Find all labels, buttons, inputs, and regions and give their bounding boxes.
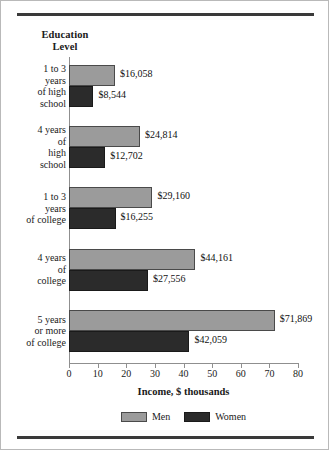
bar-men[interactable] [69, 65, 115, 86]
bar-men[interactable] [69, 310, 275, 331]
category-label-line: 1 to 3 [4, 191, 66, 203]
legend-swatch-icon [184, 412, 210, 422]
bar-women[interactable] [69, 331, 189, 352]
bar-row: $12,702 [69, 147, 298, 168]
y-axis-title: Education Level [23, 29, 107, 52]
category-label-line: years [4, 75, 66, 87]
category-label-line: 4 years [4, 124, 66, 136]
legend-label: Women [215, 411, 246, 422]
x-tick-label: 20 [111, 368, 141, 379]
bar-row: $8,544 [69, 86, 298, 107]
bar-value-label: $44,161 [200, 252, 233, 263]
legend-swatch-icon [121, 412, 147, 422]
category-label-line: of [4, 136, 66, 148]
bar-row: $16,255 [69, 208, 298, 229]
bar-men[interactable] [69, 187, 152, 208]
bar-value-label: $71,869 [280, 313, 313, 324]
x-tick-label: 30 [140, 368, 170, 379]
bar-women[interactable] [69, 270, 148, 291]
category-label-line: 1 to 3 [4, 63, 66, 75]
bar-value-label: $12,702 [110, 150, 143, 161]
category-label-line: school [4, 98, 66, 110]
x-tick-label: 80 [283, 368, 313, 379]
bar-women[interactable] [69, 208, 116, 229]
chart-figure: Education Level 01020304050607080 $16,05… [0, 0, 329, 450]
bar-women[interactable] [69, 147, 105, 168]
x-tick-label: 50 [197, 368, 227, 379]
bar-value-label: $16,058 [120, 68, 153, 79]
x-tick-label: 60 [226, 368, 256, 379]
category-label-line: 4 years [4, 252, 66, 264]
category-label-line: of high [4, 86, 66, 98]
bottom-rule [17, 436, 314, 439]
bar-value-label: $8,544 [98, 89, 126, 100]
bar-value-label: $24,814 [145, 129, 178, 140]
bar-men[interactable] [69, 126, 140, 147]
bar-row: $71,869 [69, 310, 298, 331]
bar-women[interactable] [69, 86, 93, 107]
bar-group: $44,161$27,556 [69, 241, 298, 302]
category-label: 4 yearsofhighschool [4, 124, 66, 170]
legend-label: Men [152, 411, 170, 422]
category-label-line: years [4, 203, 66, 215]
category-label-line: 5 years [4, 314, 66, 326]
bar-group: $71,869$42,059 [69, 302, 298, 363]
y-axis-title-line1: Education [42, 29, 89, 40]
bar-group: $29,160$16,255 [69, 179, 298, 240]
bar-value-label: $16,255 [121, 211, 154, 222]
legend-item-men[interactable]: Men [121, 411, 170, 422]
x-axis-title: Income, $ thousands [69, 386, 298, 397]
category-label: 4 yearsofcollege [4, 252, 66, 287]
top-rule [17, 13, 314, 16]
x-tick-label: 70 [254, 368, 284, 379]
x-tick-label: 40 [169, 368, 199, 379]
bar-group: $16,058$8,544 [69, 57, 298, 118]
category-label-line: school [4, 159, 66, 171]
category-label-line: or more [4, 325, 66, 337]
x-tick-label: 0 [54, 368, 84, 379]
bar-row: $27,556 [69, 270, 298, 291]
category-label-line: of college [4, 337, 66, 349]
bar-value-label: $27,556 [153, 273, 186, 284]
legend-item-women[interactable]: Women [184, 411, 246, 422]
chart-legend: MenWomen [69, 411, 298, 422]
category-label-line: college [4, 275, 66, 287]
category-label: 1 to 3yearsof college [4, 191, 66, 226]
y-axis-title-line2: Level [23, 41, 107, 53]
plot-area: 01020304050607080 $16,058$8,544$24,814$1… [69, 57, 298, 363]
category-label-line: of college [4, 214, 66, 226]
bar-row: $29,160 [69, 187, 298, 208]
bar-row: $42,059 [69, 331, 298, 352]
bar-row: $44,161 [69, 249, 298, 270]
bar-row: $24,814 [69, 126, 298, 147]
bar-row: $16,058 [69, 65, 298, 86]
category-label: 5 yearsor moreof college [4, 314, 66, 349]
bar-group: $24,814$12,702 [69, 118, 298, 179]
bar-men[interactable] [69, 249, 195, 270]
bar-value-label: $29,160 [157, 190, 190, 201]
category-label: 1 to 3yearsof highschool [4, 63, 66, 109]
category-label-line: of [4, 264, 66, 276]
category-label-line: high [4, 147, 66, 159]
x-tick-label: 10 [83, 368, 113, 379]
bar-value-label: $42,059 [194, 334, 227, 345]
